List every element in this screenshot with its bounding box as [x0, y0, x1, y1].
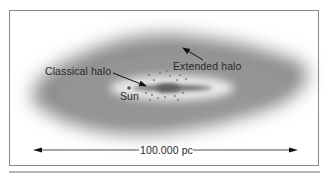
galactic-bulge	[156, 84, 180, 93]
scale-label: 100.000 pc	[140, 144, 193, 156]
extended-halo-label: Extended halo	[173, 60, 241, 72]
scale-left-arrowhead	[33, 148, 42, 153]
sun-label: Sun	[120, 90, 139, 102]
scale-right-arrowhead	[289, 148, 298, 153]
classical-halo-label: Classical halo	[45, 65, 111, 77]
